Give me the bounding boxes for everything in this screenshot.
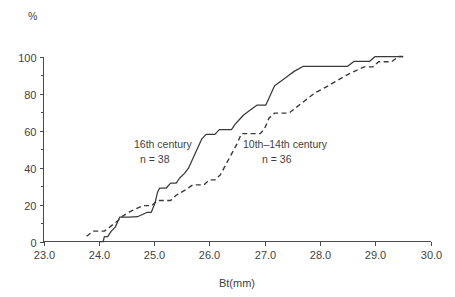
x-tick-label: 24.0 bbox=[89, 249, 110, 261]
y-axis-tick-labels: 020406080100 bbox=[18, 52, 36, 249]
x-tick-label: 30.0 bbox=[421, 249, 442, 261]
y-tick-label: 20 bbox=[24, 200, 36, 212]
y-tick-label: 0 bbox=[30, 237, 36, 249]
x-tick-label: 25.0 bbox=[144, 249, 165, 261]
annotation-16th-century-count: n = 38 bbox=[140, 153, 170, 165]
x-axis-title: Bt(mm) bbox=[219, 277, 255, 289]
x-tick-label: 23.0 bbox=[34, 249, 55, 261]
chart-canvas: % 020406080100 23.024.025.026.027.028.02… bbox=[0, 0, 455, 297]
y-tick-label: 80 bbox=[24, 89, 36, 101]
y-tick-label: 40 bbox=[24, 163, 36, 175]
x-axis-tick-labels: 23.024.025.026.027.028.029.030.0 bbox=[34, 249, 442, 261]
y-tick-label: 100 bbox=[18, 52, 36, 64]
x-tick-label: 26.0 bbox=[199, 249, 220, 261]
annotation-10th-14th-century-label: 10th–14th century bbox=[243, 138, 328, 150]
annotation-10th-14th-century-count: n = 36 bbox=[262, 153, 292, 165]
y-tick-label: 60 bbox=[24, 126, 36, 138]
x-tick-label: 29.0 bbox=[365, 249, 386, 261]
annotation-16th-century-label: 16th century bbox=[134, 138, 193, 150]
x-tick-label: 28.0 bbox=[310, 249, 331, 261]
cumulative-frequency-chart: % 020406080100 23.024.025.026.027.028.02… bbox=[0, 0, 455, 297]
x-tick-label: 27.0 bbox=[255, 249, 276, 261]
y-axis-unit-label: % bbox=[28, 10, 37, 22]
